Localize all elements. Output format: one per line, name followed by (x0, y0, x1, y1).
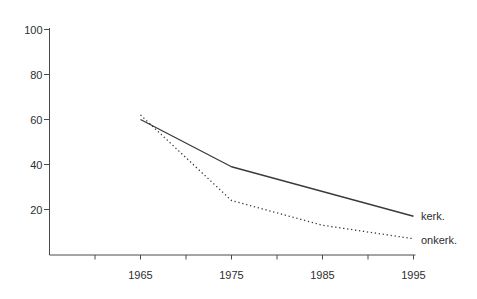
series-label-onkerk: onkerk. (421, 234, 457, 246)
chart-page: 204060801001965197519851995 kerk. onkerk… (0, 0, 477, 299)
y-tick-label: 40 (30, 159, 42, 171)
y-tick-label: 20 (30, 204, 42, 216)
y-tick-label: 100 (24, 24, 42, 36)
x-tick-label: 1985 (310, 269, 334, 281)
y-tick-label: 60 (30, 114, 42, 126)
x-tick-label: 1995 (401, 269, 425, 281)
y-tick-label: 80 (30, 69, 42, 81)
series-line-onkerk (141, 115, 414, 239)
x-tick-label: 1975 (219, 269, 243, 281)
series-label-kerk: kerk. (421, 210, 445, 222)
series-line-kerk (141, 120, 414, 217)
x-tick-label: 1965 (128, 269, 152, 281)
line-chart: 204060801001965197519851995 (0, 0, 477, 299)
